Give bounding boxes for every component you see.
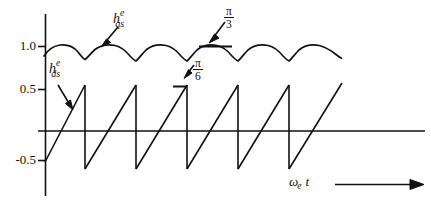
h-qs-subscript: qs [115, 18, 124, 29]
plot-canvas [0, 0, 431, 208]
y-tick-label--0.5: -0.5 [0, 153, 36, 166]
annotation-pi-over-3: π 3 [224, 5, 234, 30]
y-tick-label-0.5: 0.5 [2, 82, 36, 95]
pi-over-6-denominator: 6 [193, 69, 203, 82]
series-label-h-qs: heqs [113, 12, 133, 26]
pi-over-6-numerator: π [193, 57, 203, 69]
y-tick-label-1.0: 1.0 [2, 39, 36, 52]
waveform-figure: 1.0 0.5 -0.5 heqs heds π 3 π 6 ωet [0, 0, 431, 208]
series-h-ds-sawtooth [45, 83, 342, 169]
x-axis-label: ωet [289, 175, 309, 189]
time-variable-t: t [305, 174, 309, 189]
pi-over-3-numerator: π [224, 5, 234, 17]
callout-arrow-h-qs [101, 27, 118, 47]
h-ds-superscript: e [56, 58, 60, 68]
callout-arrow-h-ds [58, 85, 73, 110]
h-qs-superscript: e [120, 8, 124, 18]
annotation-pi-over-6: π 6 [193, 57, 203, 82]
series-label-h-ds: heds [49, 62, 69, 76]
omega-subscript-e: e [297, 181, 301, 191]
x-axis-label-arrow [335, 180, 424, 190]
pi-over-3-denominator: 3 [224, 17, 234, 30]
marker-pi-over-6 [173, 65, 194, 87]
h-ds-subscript: ds [51, 68, 60, 79]
